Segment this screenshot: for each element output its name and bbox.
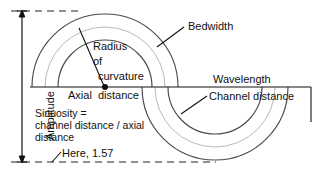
diagram-linework	[0, 0, 322, 170]
diagram-canvas: Amplitude Bedwidth Radius of curvature A…	[0, 0, 322, 170]
sinuosity-formula-line1: Sinuosity =	[35, 108, 87, 120]
channel-distance-label: Channel distance	[209, 90, 294, 102]
channel-distance-leader-line	[181, 96, 207, 114]
radius-of-curvature-label-line2: of	[93, 55, 102, 67]
bedwidth-leader-line	[157, 27, 184, 47]
sinuosity-formula-line2: channel distance / axial	[35, 120, 144, 132]
sinuosity-formula-line3: distance	[35, 132, 74, 144]
radius-of-curvature-label-line1: Radius	[93, 40, 127, 52]
amplitude-arrow	[17, 10, 27, 163]
here-value-leader-line	[52, 152, 61, 162]
here-value-label: Here, 1.57	[62, 147, 113, 159]
bedwidth-label: Bedwidth	[188, 20, 233, 32]
axial-distance-label: Axial distance	[68, 89, 139, 101]
wavelength-label: Wavelength	[213, 73, 271, 85]
radius-of-curvature-label-line3: curvature	[98, 70, 144, 82]
